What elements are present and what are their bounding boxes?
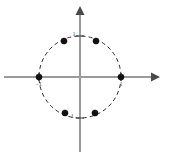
x-axis-arrow-icon — [151, 73, 160, 82]
root-point-3 — [36, 74, 42, 80]
tick-x-negative-one-label: -1 — [36, 80, 42, 88]
tick-y-negative-one-label: -1 — [68, 112, 74, 120]
root-point-5 — [92, 110, 98, 116]
root-point-2 — [61, 38, 67, 44]
root-point-1 — [93, 38, 99, 44]
y-axis-arrow-icon — [76, 6, 85, 15]
unit-circle-figure: 1-1-11 — [0, 0, 170, 156]
tick-x-positive-one-label: 1 — [119, 80, 123, 88]
unit-circle-plot: 1-1-11 — [0, 0, 170, 156]
root-point-0 — [118, 74, 124, 80]
tick-y-positive-one-label: 1 — [72, 30, 76, 38]
root-point-4 — [62, 110, 68, 116]
